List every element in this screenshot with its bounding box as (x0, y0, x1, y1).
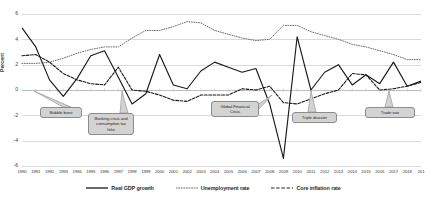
legend-swatch-dotted-icon (176, 185, 198, 191)
x-tick-label: 2006 (238, 169, 247, 174)
x-tick-label: 1994 (72, 169, 81, 174)
legend: Real GDP growth Unemployment rate Core i… (0, 185, 427, 191)
x-tick-label: 1992 (45, 169, 54, 174)
x-tick-label: 2011 (307, 169, 316, 174)
annotation-callout[interactable]: Banking crisis and consumption tax hike (88, 113, 134, 135)
x-tick-label: 2004 (210, 169, 219, 174)
x-tick-label: 2012 (320, 169, 329, 174)
legend-item-unemployment[interactable]: Unemployment rate (176, 185, 250, 191)
chart-container: Percent 6420-2-4-6 199019911992199319941… (0, 0, 427, 200)
series-line-real-gdp-growth (22, 28, 421, 158)
x-tick-label: 2007 (251, 169, 260, 174)
x-tick-label: 2002 (183, 169, 192, 174)
x-tick-label: 1999 (141, 169, 150, 174)
legend-item-inflation[interactable]: Core inflation rate (271, 185, 340, 191)
x-tick-label: 2000 (155, 169, 164, 174)
legend-label-unemployment: Unemployment rate (201, 185, 250, 191)
x-tick-label: 1990 (17, 169, 26, 174)
x-tick-label: 2005 (224, 169, 233, 174)
legend-item-gdp[interactable]: Real GDP growth (86, 185, 153, 191)
plot-area (22, 14, 421, 166)
annotation-callout[interactable]: Global Financial Crisis (211, 101, 259, 117)
series-line-unemployment-rate (22, 22, 421, 64)
x-tick-label: 201 (418, 169, 425, 174)
x-tick-label: 1995 (86, 169, 95, 174)
x-axis-ticks: 1990199119921993199419951996199719981999… (22, 169, 427, 177)
series-layer (22, 14, 421, 166)
x-tick-label: 1997 (114, 169, 123, 174)
annotation-callout[interactable]: Triple disaster (292, 112, 337, 123)
x-tick-label: 2018 (403, 169, 412, 174)
x-tick-label: 2003 (196, 169, 205, 174)
gridline (22, 166, 421, 167)
x-tick-label: 2009 (279, 169, 288, 174)
x-tick-label: 2010 (293, 169, 302, 174)
x-tick-label: 1993 (59, 169, 68, 174)
y-tick-label: -2 (2, 113, 18, 118)
x-tick-label: 1996 (100, 169, 109, 174)
y-tick-label: 2 (2, 62, 18, 67)
legend-label-inflation: Core inflation rate (296, 185, 340, 191)
x-tick-label: 2016 (375, 169, 384, 174)
x-tick-label: 2013 (334, 169, 343, 174)
x-tick-label: 1998 (127, 169, 136, 174)
y-tick-label: 4 (2, 37, 18, 42)
x-tick-label: 2008 (265, 169, 274, 174)
annotation-callout[interactable]: Trade war (365, 107, 415, 118)
legend-swatch-dashed-icon (271, 185, 293, 191)
annotation-callout[interactable]: Bubble burst (40, 107, 82, 118)
x-tick-label: 2001 (169, 169, 178, 174)
series-line-core-inflation-rate (22, 55, 421, 104)
legend-swatch-solid-icon (86, 185, 108, 191)
x-tick-label: 2017 (389, 169, 398, 174)
y-tick-label: -4 (2, 138, 18, 143)
y-tick-label: -6 (2, 163, 18, 168)
x-tick-label: 1991 (31, 169, 40, 174)
x-tick-label: 2015 (361, 169, 370, 174)
legend-label-gdp: Real GDP growth (111, 185, 153, 191)
y-tick-label: 0 (2, 87, 18, 92)
x-tick-label: 2014 (348, 169, 357, 174)
y-tick-label: 6 (2, 11, 18, 16)
